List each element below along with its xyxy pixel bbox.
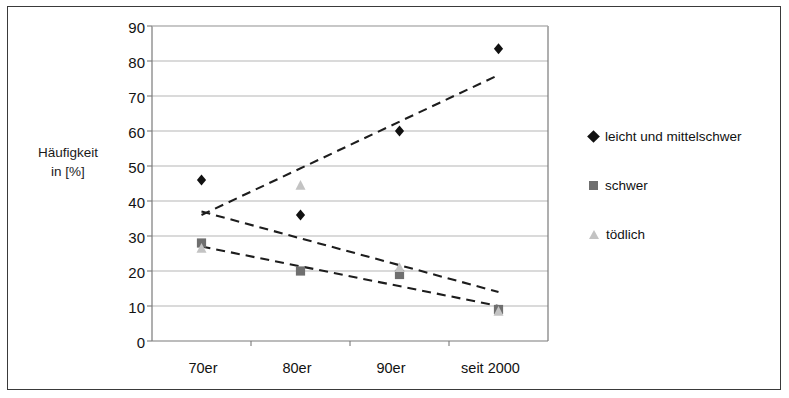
- y-tick-label-20: 20: [105, 264, 145, 281]
- y-tick-label-90: 90: [105, 19, 145, 36]
- legend-item-leicht-und-mittelschwer: leicht und mittelschwer: [588, 128, 742, 144]
- x-tick-label-90er: 90er: [356, 360, 426, 376]
- triangle-marker-icon: [589, 230, 599, 239]
- y-tick-label-70: 70: [105, 89, 145, 106]
- y-tick-label-60: 60: [105, 124, 145, 141]
- chart-legend: leicht und mittelschwer schwer tödlich: [588, 128, 742, 275]
- diamond-marker-icon: [587, 130, 600, 143]
- legend-label-1: schwer: [605, 178, 648, 193]
- y-tick-label-80: 80: [105, 54, 145, 71]
- y-tick-label-0: 0: [105, 334, 145, 351]
- plot-axes: [152, 26, 548, 341]
- legend-label-0: leicht und mittelschwer: [605, 129, 742, 144]
- y-tick-label-40: 40: [105, 194, 145, 211]
- plot-gridlines: [152, 26, 548, 306]
- square-marker-icon: [589, 181, 598, 190]
- y-tick-label-30: 30: [105, 229, 145, 246]
- legend-label-2: tödlich: [606, 227, 645, 242]
- x-tick-label-80er: 80er: [262, 360, 332, 376]
- x-tick-label-70er: 70er: [168, 360, 238, 376]
- data-markers: [197, 43, 504, 316]
- y-tick-label-10: 10: [105, 299, 145, 316]
- legend-item-toedlich: tödlich: [588, 226, 742, 242]
- x-tick-label-seit-2000: seit 2000: [443, 360, 538, 376]
- legend-item-schwer: schwer: [588, 177, 742, 193]
- y-tick-label-50: 50: [105, 159, 145, 176]
